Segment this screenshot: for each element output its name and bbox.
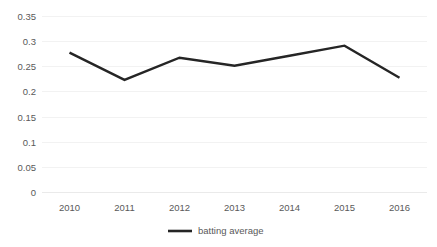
chart-canvas: 0.35 0.3 0.25 0.2 0.15 0.1 0.05 0 2010 2… <box>0 0 437 247</box>
y-tick-label: 0.35 <box>18 11 37 22</box>
y-tick-label: 0 <box>31 187 36 198</box>
gridlines <box>42 17 427 193</box>
line-chart: 0.35 0.3 0.25 0.2 0.15 0.1 0.05 0 2010 2… <box>0 0 437 247</box>
x-tick-label: 2010 <box>59 202 80 213</box>
x-tick-label: 2015 <box>334 202 355 213</box>
y-tick-label: 0.1 <box>23 137 36 148</box>
y-tick-label: 0.25 <box>18 61 37 72</box>
x-tick-label: 2013 <box>224 202 245 213</box>
y-tick-label: 0.2 <box>23 86 36 97</box>
legend: batting average <box>168 225 264 236</box>
y-tick-label: 0.15 <box>18 112 37 123</box>
y-tick-label: 0.05 <box>18 162 37 173</box>
x-tick-label: 2014 <box>279 202 300 213</box>
y-axis-tick-labels: 0.35 0.3 0.25 0.2 0.15 0.1 0.05 0 <box>18 11 37 198</box>
x-tick-label: 2012 <box>169 202 190 213</box>
y-tick-label: 0.3 <box>23 36 36 47</box>
series-line-batting-average <box>70 46 400 80</box>
legend-label-batting-average: batting average <box>198 225 264 236</box>
x-axis-tick-labels: 2010 2011 2012 2013 2014 2015 2016 <box>59 202 410 213</box>
x-tick-label: 2011 <box>114 202 134 213</box>
x-tick-label: 2016 <box>389 202 410 213</box>
